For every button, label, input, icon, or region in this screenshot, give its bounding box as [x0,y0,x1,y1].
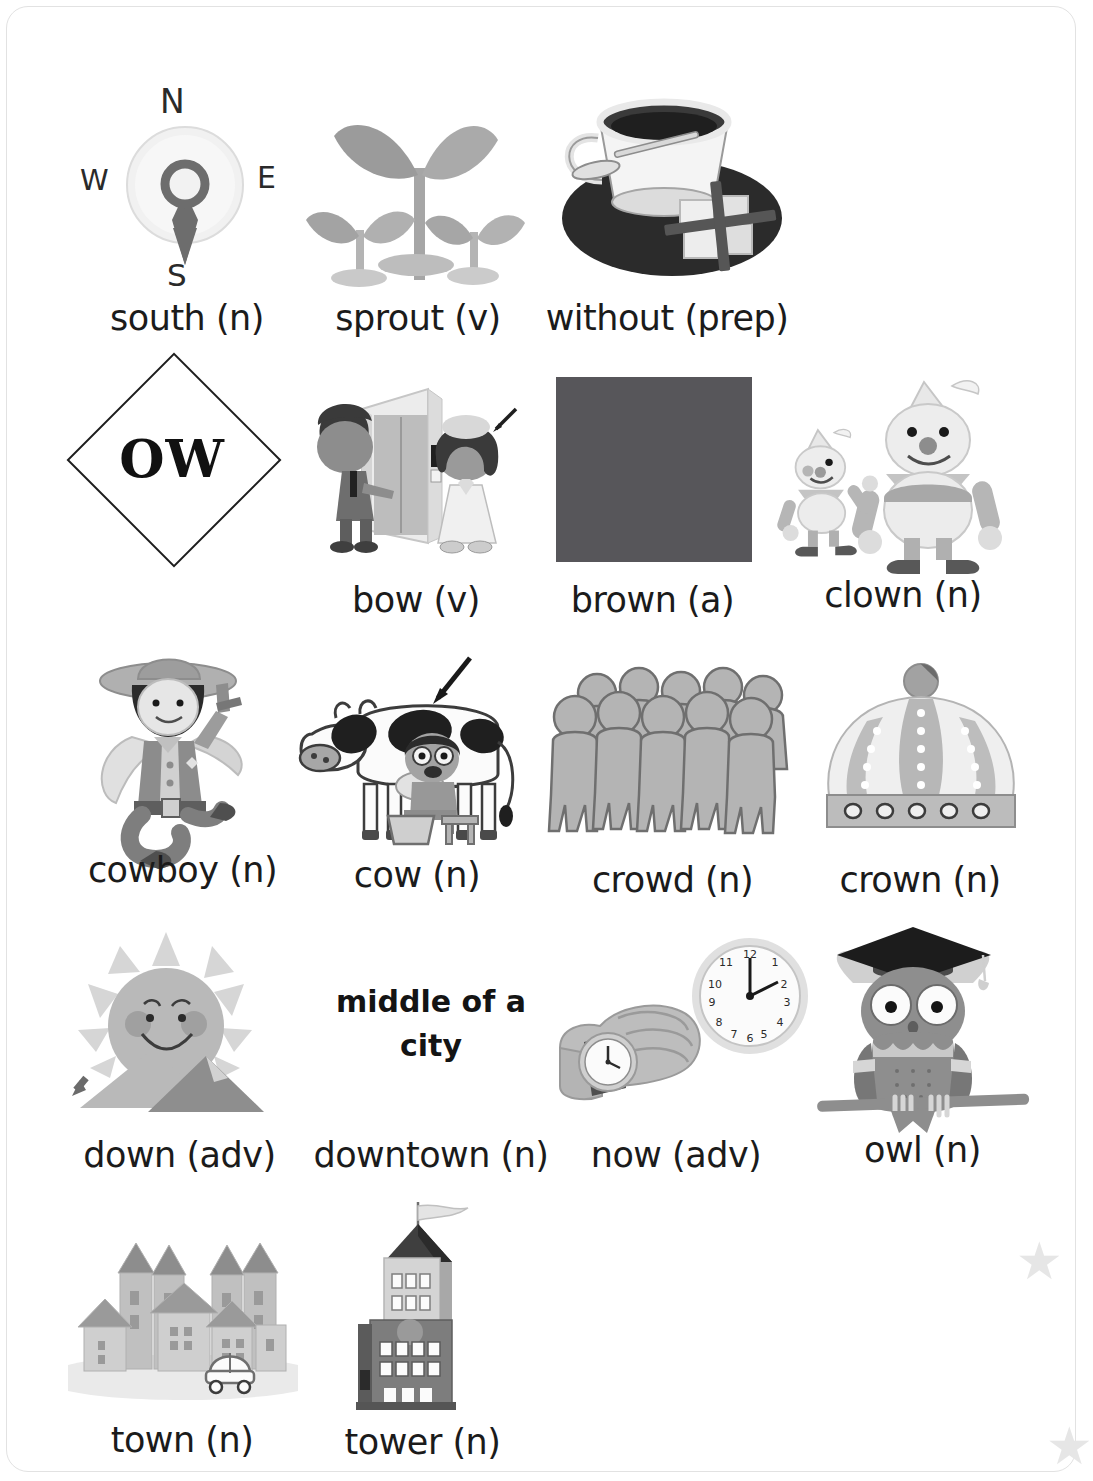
crown-icon [805,655,1035,855]
compass-west-label: W [80,163,109,197]
svg-text:1: 1 [772,956,779,969]
color-swatch-icon [556,377,752,562]
entry-label-brown: brown (a) [540,580,765,620]
entry-label-crowd: crowd (n) [555,860,790,900]
teacup-no-sugar-icon [532,60,802,295]
compass-south-label: S [167,257,187,293]
svg-text:6: 6 [747,1032,754,1045]
sun-setting-mountain-icon [62,930,297,1140]
phonics-focus-text: OW [72,358,272,558]
cow-milking-icon [292,650,542,855]
flashcard-crown[interactable]: crown (n) [805,655,1035,910]
svg-text:10: 10 [708,978,722,991]
crowd-icon [555,655,790,855]
flashcard-clown[interactable]: clown (n) [778,370,1028,635]
flashcard-crowd[interactable]: crowd (n) [555,655,790,910]
flashcard-south[interactable]: N W E S south (n) [72,60,302,350]
flashcard-brown[interactable]: brown (a) [540,375,765,635]
downtown-definition-line1: middle of a [296,980,566,1024]
svg-text:11: 11 [719,956,733,969]
cowboy-icon [70,645,295,860]
flashcard-town[interactable]: town (n) [62,1215,302,1470]
entry-label-cow: cow (n) [292,855,542,895]
clowns-icon [778,370,1028,570]
decorative-star-icon-2: ★ [1046,1420,1093,1472]
entry-label-downtown: downtown (n) [296,1135,566,1175]
tower-building-icon [300,1200,545,1415]
entry-label-tower: tower (n) [300,1422,545,1462]
flashcard-bow[interactable]: bow (v) [300,375,532,635]
entry-label-now: now (adv) [556,1135,796,1175]
owl-graduate-icon [815,925,1030,1135]
entry-label-sprout: sprout (v) [298,298,538,338]
town-houses-icon [62,1215,302,1410]
diamond-shape: OW [72,358,272,558]
svg-text:5: 5 [761,1028,768,1041]
entry-label-bow: bow (v) [300,580,532,620]
seedling-icon [298,60,538,295]
flashcard-downtown[interactable]: middle of a city downtown (n) [296,930,566,1190]
wristwatch-clock-icon: 12 1 2 3 4 5 6 7 8 9 10 11 [556,930,796,1140]
svg-text:4: 4 [777,1016,784,1029]
svg-text:8: 8 [716,1016,723,1029]
svg-text:7: 7 [731,1028,738,1041]
people-bowing-elevator-icon [300,375,532,575]
entry-label-clown: clown (n) [778,575,1028,615]
entry-label-crown: crown (n) [805,860,1035,900]
compass-east-label: E [257,160,276,195]
entry-label-south: south (n) [72,298,302,338]
decorative-star-icon-1: ★ [1016,1235,1063,1287]
flashcard-down[interactable]: down (adv) [62,930,297,1190]
svg-text:2: 2 [781,978,788,991]
entry-label-owl: owl (n) [815,1130,1030,1170]
compass-north-label: N [160,82,185,121]
flashcard-now[interactable]: 12 1 2 3 4 5 6 7 8 9 10 11 [556,930,796,1190]
entry-label-without: without (prep) [532,298,802,338]
svg-text:3: 3 [784,996,791,1009]
flashcard-without[interactable]: without (prep) [532,60,802,350]
flashcard-owl[interactable]: owl (n) [815,925,1030,1190]
downtown-definition-line2: city [296,1024,566,1068]
flashcard-sprout[interactable]: sprout (v) [298,60,538,350]
flashcard-cow[interactable]: cow (n) [292,650,542,910]
flashcard-ow-diamond[interactable]: OW [72,358,272,588]
flashcard-cowboy[interactable]: cowboy (n) [70,645,295,910]
entry-label-cowboy: cowboy (n) [70,850,295,890]
svg-text:9: 9 [709,996,716,1009]
entry-label-down: down (adv) [62,1135,297,1175]
entry-label-town: town (n) [62,1420,302,1460]
flashcard-tower[interactable]: tower (n) [300,1200,545,1475]
